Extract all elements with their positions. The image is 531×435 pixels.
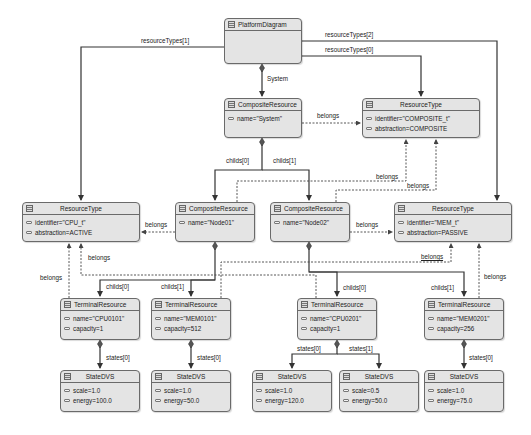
attribute: energy=50.0 (152, 395, 230, 405)
attribute: capacity=512 (152, 323, 230, 333)
label-belongs: belongs (88, 254, 110, 261)
class-icon (228, 21, 235, 28)
node-terminal-mem0201[interactable]: TerminalResource name="MEM0201" capacity… (424, 298, 504, 340)
label-childs-0: childs[0] (226, 157, 249, 164)
label-belongs: belongs (145, 221, 167, 228)
class-icon (256, 373, 263, 380)
attribute-icon (64, 389, 70, 392)
class-icon (343, 373, 350, 380)
attribute-icon (155, 399, 161, 402)
attribute-icon (64, 327, 70, 330)
node-type: TerminalResource (438, 301, 490, 308)
attribute: name="Node02" (271, 217, 349, 227)
attribute-icon (274, 221, 280, 224)
attribute-icon (366, 127, 372, 130)
attribute: capacity=1 (298, 323, 376, 333)
attribute: energy=75.0 (425, 395, 503, 405)
edge-resourcetypes-1 (81, 47, 224, 200)
label-belongs: belongs (40, 274, 62, 281)
attribute-icon (64, 317, 70, 320)
attribute-icon (428, 317, 434, 320)
attribute-icon (155, 389, 161, 392)
node-type: TerminalResource (311, 301, 363, 308)
node-resourcetype-cpu[interactable]: ResourceType identifier="CPU_t" abstract… (22, 202, 140, 242)
node-type: CompositeResource (189, 205, 248, 212)
node-type: TerminalResource (74, 301, 126, 308)
node-composite-node02[interactable]: CompositeResource name="Node02" (270, 202, 350, 242)
class-icon (179, 205, 186, 212)
attribute: name="MEM0101" (152, 313, 230, 323)
label-resourcetypes-2: resourceTypes[2] (325, 31, 373, 38)
attribute-icon (256, 399, 262, 402)
attribute: identifier="CPU_t" (23, 217, 139, 227)
class-icon (366, 101, 373, 108)
node-type: StateDVS (177, 373, 206, 380)
node-resourcetype-mem[interactable]: ResourceType identifier="MEM_t" abstract… (394, 202, 512, 242)
attribute: scale=1.0 (61, 385, 139, 395)
attribute-icon (228, 117, 234, 120)
class-icon (428, 373, 435, 380)
attribute-icon (64, 399, 70, 402)
node-composite-system[interactable]: CompositeResource name="System" (224, 98, 302, 138)
attribute: abstraction=PASSIVE (395, 227, 511, 237)
attribute-icon (398, 221, 404, 224)
attribute-icon (155, 317, 161, 320)
label-states-1: states[1] (349, 345, 373, 352)
label-childs-1: childs[1] (273, 157, 296, 164)
label-states-0: states[0] (297, 345, 321, 352)
node-terminal-cpu0101[interactable]: TerminalResource name="CPU0101" capacity… (60, 298, 140, 340)
edge-belongs-node02-composite (336, 140, 436, 202)
attribute: capacity=256 (425, 323, 503, 333)
label-belongs: belongs (376, 173, 398, 180)
class-icon (301, 301, 308, 308)
attribute-icon (428, 399, 434, 402)
attribute: scale=1.0 (253, 385, 331, 395)
attribute: name="CPU0101" (61, 313, 139, 323)
attribute: identifier="COMPOSITE_t" (363, 113, 479, 123)
attribute: abstraction=ACTIVE (23, 227, 139, 237)
node-platform-diagram[interactable]: PlatformDiagram (224, 18, 302, 64)
node-composite-node01[interactable]: CompositeResource name="Node01" (175, 202, 255, 242)
edge-belongs-mem0101 (221, 244, 451, 298)
attribute: scale=1.0 (152, 385, 230, 395)
node-terminal-mem0101[interactable]: TerminalResource name="MEM0101" capacity… (151, 298, 231, 340)
node-state-mem0101-0[interactable]: StateDVS scale=1.0 energy=50.0 (151, 370, 231, 412)
node-type: TerminalResource (165, 301, 217, 308)
attribute-icon (155, 327, 161, 330)
label-belongs: belongs (421, 253, 443, 260)
attribute-icon (366, 117, 372, 120)
edge-system-childs (215, 142, 262, 200)
node-type: StateDVS (450, 373, 479, 380)
edge-node02-childs (309, 246, 337, 296)
label-resourcetypes-1: resourceTypes[1] (141, 37, 189, 44)
attribute-icon (301, 317, 307, 320)
class-icon (64, 301, 71, 308)
attribute: name="System" (225, 113, 301, 123)
attribute: energy=120.0 (253, 395, 331, 405)
node-type: ResourceType (432, 205, 474, 212)
attribute-icon (428, 327, 434, 330)
edge-resourcetypes-0 (302, 56, 421, 96)
attribute-icon (256, 389, 262, 392)
attribute: identifier="MEM_t" (395, 217, 511, 227)
class-icon (155, 301, 162, 308)
label-system: System (267, 75, 288, 82)
node-type: StateDVS (278, 373, 307, 380)
class-icon (228, 101, 235, 108)
node-terminal-cpu0201[interactable]: TerminalResource name="CPU0201" capacity… (297, 298, 377, 340)
node-state-mem0201-0[interactable]: StateDVS scale=1.0 energy=75.0 (424, 370, 504, 412)
label-states-0: states[0] (469, 354, 493, 361)
node-resourcetype-composite[interactable]: ResourceType identifier="COMPOSITE_t" ab… (362, 98, 480, 138)
attribute: name="CPU0201" (298, 313, 376, 323)
node-state-cpu0101-0[interactable]: StateDVS scale=1.0 energy=100.0 (60, 370, 140, 412)
node-state-cpu0201-0[interactable]: StateDVS scale=1.0 energy=120.0 (252, 370, 332, 412)
node-state-cpu0201-1[interactable]: StateDVS scale=0.5 energy=50.0 (339, 370, 419, 412)
attribute: scale=1.0 (425, 385, 503, 395)
label-belongs: belongs (356, 221, 378, 228)
node-type: StateDVS (86, 373, 115, 380)
node-type: CompositeResource (284, 205, 343, 212)
class-icon (274, 205, 281, 212)
attribute: energy=50.0 (340, 395, 418, 405)
attribute: abstraction=COMPOSITE (363, 123, 479, 133)
label-belongs: belongs (317, 112, 339, 119)
